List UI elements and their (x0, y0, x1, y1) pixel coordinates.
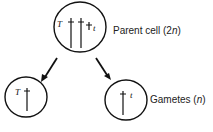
arrow-right (96, 58, 111, 80)
gamete-left-allele: T (15, 87, 21, 97)
gamete-left: T (5, 77, 47, 117)
gamete-right: t (105, 80, 147, 120)
meiosis-diagram: T t Parent cell (2n) T (0, 0, 213, 132)
parent-chromosome-1 (68, 18, 74, 48)
gametes-label: Gametes (n) (150, 94, 206, 105)
gamete-right-allele: t (130, 90, 133, 100)
parent-cell: T t (54, 2, 106, 52)
parent-chromosome-3 (86, 22, 92, 30)
parent-cell-label: Parent cell (2n) (113, 25, 181, 36)
parent-allele-t: t (93, 23, 96, 33)
parent-chromosome-2 (78, 18, 84, 48)
parent-allele-T: T (57, 19, 63, 29)
arrow-left (41, 58, 57, 82)
